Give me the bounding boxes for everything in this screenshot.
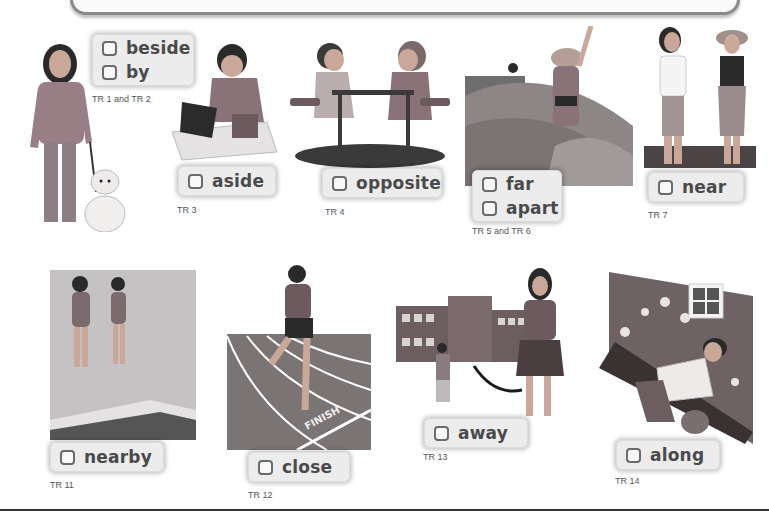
- checkbox[interactable]: [258, 460, 273, 475]
- checkbox[interactable]: [60, 450, 75, 465]
- word-near: near: [682, 177, 726, 197]
- label-far-apart: far apart: [472, 170, 562, 222]
- track-number: TR 7: [648, 210, 668, 220]
- option-apart[interactable]: apart: [482, 196, 552, 220]
- checkbox[interactable]: [102, 41, 117, 56]
- checkbox[interactable]: [332, 176, 347, 191]
- instruction-box: [70, 0, 740, 15]
- track-number: TR 3: [177, 205, 197, 215]
- word-along: along: [650, 445, 704, 465]
- word-aside: aside: [212, 171, 264, 191]
- checkbox[interactable]: [102, 65, 117, 80]
- page-divider: [0, 509, 769, 511]
- illustration-girls-near-pool: [50, 270, 196, 440]
- track-number: TR 5 and TR 6: [472, 226, 531, 236]
- option-close[interactable]: close: [258, 455, 340, 479]
- illustration-boy-with-laptop: [172, 42, 282, 162]
- option-nearby[interactable]: nearby: [60, 445, 154, 469]
- track-number: TR 4: [325, 207, 345, 217]
- illustration-girls-standing: [640, 26, 756, 176]
- option-far[interactable]: far: [482, 172, 552, 196]
- option-away[interactable]: away: [434, 421, 518, 445]
- track-number: TR 12: [248, 490, 273, 500]
- label-opposite: opposite: [322, 168, 442, 198]
- track-number: TR 14: [615, 476, 640, 486]
- label-aside: aside: [178, 166, 276, 196]
- track-number: TR 11: [50, 480, 74, 490]
- track-number: TR 1 and TR 2: [92, 94, 151, 104]
- label-close: close: [248, 452, 350, 482]
- word-opposite: opposite: [356, 173, 441, 193]
- option-aside[interactable]: aside: [188, 169, 266, 193]
- illustration-boy-gardening-along-wall: [595, 272, 753, 444]
- checkbox[interactable]: [482, 201, 497, 216]
- word-far: far: [506, 174, 534, 194]
- checkbox[interactable]: [434, 426, 449, 441]
- checkbox[interactable]: [188, 174, 203, 189]
- option-near[interactable]: near: [658, 175, 734, 199]
- checkbox[interactable]: [482, 177, 497, 192]
- illustration-girl-walking-away-from-school: [394, 266, 568, 426]
- word-apart: apart: [506, 198, 559, 218]
- option-along[interactable]: along: [626, 443, 710, 467]
- word-away: away: [458, 423, 508, 443]
- word-nearby: nearby: [84, 447, 152, 467]
- label-nearby: nearby: [50, 442, 164, 472]
- label-along: along: [616, 440, 720, 470]
- illustration-girls-on-rocks: [465, 26, 633, 186]
- word-close: close: [282, 457, 332, 477]
- track-number: TR 13: [423, 452, 448, 462]
- option-opposite[interactable]: opposite: [332, 171, 432, 195]
- word-by: by: [126, 62, 150, 82]
- label-near: near: [648, 172, 744, 202]
- checkbox[interactable]: [658, 180, 673, 195]
- illustration-runner-finish-line: FINISH: [227, 260, 371, 450]
- illustration-girls-at-table: [290, 38, 450, 168]
- label-away: away: [424, 418, 528, 448]
- checkbox[interactable]: [626, 448, 641, 463]
